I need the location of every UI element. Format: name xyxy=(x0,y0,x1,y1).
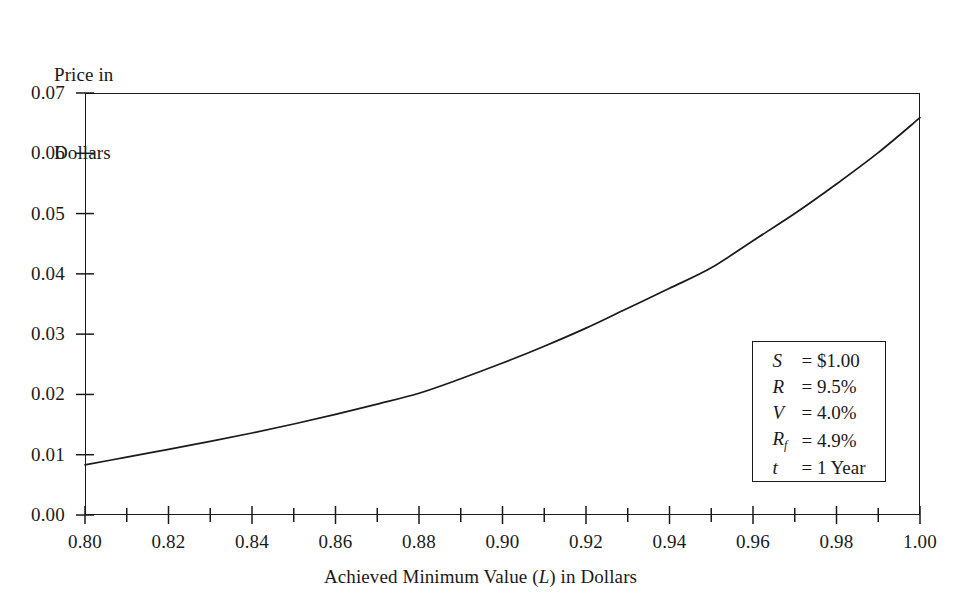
legend-row: V= 4.0% xyxy=(772,400,865,426)
parameter-legend-box: S= $1.00R= 9.5%V= 4.0%Rf= 4.9%t= 1 Year xyxy=(752,341,886,482)
legend-value: = $1.00 xyxy=(801,348,865,374)
x-tick-label: 0.82 xyxy=(129,531,209,553)
y-tick-label: 0.01 xyxy=(5,444,65,466)
plot-svg xyxy=(0,0,961,611)
legend-value: = 1 Year xyxy=(801,455,865,481)
legend-value: = 4.9% xyxy=(801,426,865,455)
legend-row: R= 9.5% xyxy=(772,374,865,400)
x-tick-label: 0.96 xyxy=(713,531,793,553)
legend-value: = 4.0% xyxy=(801,400,865,426)
chart-figure: Price in Dollars 0.000.010.020.030.040.0… xyxy=(0,0,961,611)
x-axis-title: Achieved Minimum Value (L) in Dollars xyxy=(0,566,961,588)
legend-table: S= $1.00R= 9.5%V= 4.0%Rf= 4.9%t= 1 Year xyxy=(772,348,865,481)
y-tick-label: 0.06 xyxy=(5,142,65,164)
legend-row: t= 1 Year xyxy=(772,455,865,481)
x-axis-ticks xyxy=(85,506,920,524)
y-tick-label: 0.02 xyxy=(5,383,65,405)
y-tick-label: 0.07 xyxy=(5,82,65,104)
legend-row: S= $1.00 xyxy=(772,348,865,374)
y-tick-label: 0.00 xyxy=(5,504,65,526)
legend-symbol: t xyxy=(772,455,801,481)
x-tick-label: 0.98 xyxy=(797,531,877,553)
y-tick-label: 0.05 xyxy=(5,203,65,225)
x-tick-label: 0.94 xyxy=(630,531,710,553)
x-tick-label: 0.88 xyxy=(379,531,459,553)
x-tick-label: 0.84 xyxy=(212,531,292,553)
x-axis-title-post: ) in Dollars xyxy=(549,566,637,587)
x-tick-label: 0.90 xyxy=(463,531,543,553)
x-tick-label: 0.86 xyxy=(296,531,376,553)
legend-symbol: S xyxy=(772,348,801,374)
x-tick-label: 1.00 xyxy=(880,531,960,553)
x-axis-title-symbol: L xyxy=(539,566,550,587)
x-tick-label: 0.80 xyxy=(45,531,125,553)
legend-row: Rf= 4.9% xyxy=(772,426,865,455)
y-tick-label: 0.04 xyxy=(5,263,65,285)
y-tick-label: 0.03 xyxy=(5,323,65,345)
x-tick-label: 0.92 xyxy=(546,531,626,553)
y-axis-ticks xyxy=(76,93,94,515)
legend-symbol: V xyxy=(772,400,801,426)
legend-symbol-subscript: f xyxy=(784,438,787,452)
legend-symbol: R xyxy=(772,374,801,400)
legend-value: = 9.5% xyxy=(801,374,865,400)
x-axis-title-pre: Achieved Minimum Value ( xyxy=(324,566,539,587)
legend-symbol: Rf xyxy=(772,426,801,455)
